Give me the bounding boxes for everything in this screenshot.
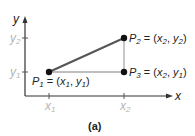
x-axis-arrow-icon [166, 94, 173, 99]
y-axis-label: y [12, 12, 20, 26]
p3-label: P3 = (x2, y1) [129, 66, 187, 80]
distance-diagram: y x y2 y1 x1 x2 P1 = (x1, y1) P2 = (x2, … [0, 0, 195, 136]
x-axis-label: x [174, 89, 182, 103]
p1-label: P1 = (x1, y1) [32, 75, 90, 89]
figure-caption: (a) [88, 120, 102, 132]
y-axis-arrow-icon [23, 16, 28, 23]
point-p2 [121, 35, 127, 41]
y2-tick-label: y2 [9, 31, 21, 46]
y1-tick-label: y1 [9, 65, 20, 80]
hypotenuse [49, 38, 124, 72]
x1-tick-label: x1 [44, 99, 55, 114]
x2-tick-label: x2 [119, 99, 131, 114]
p2-label: P2 = (x2, y2) [129, 32, 187, 46]
point-p3 [121, 69, 127, 75]
ticks [22, 38, 124, 99]
